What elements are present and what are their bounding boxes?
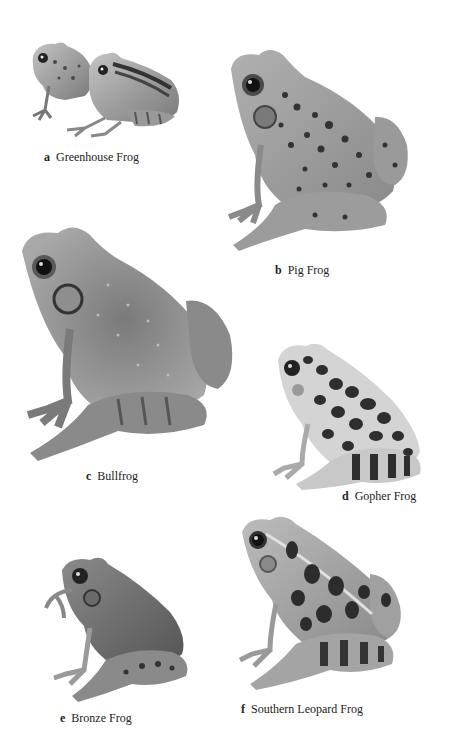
- caption-letter: d: [342, 489, 349, 503]
- caption-name: Bullfrog: [97, 469, 138, 483]
- caption-bullfrog: cBullfrog: [86, 469, 138, 484]
- caption-name: Greenhouse Frog: [56, 150, 139, 164]
- gopher-frog-illustration: [272, 340, 437, 490]
- caption-name: Gopher Frog: [355, 489, 417, 503]
- pig-frog-illustration: [225, 45, 415, 255]
- caption-letter: a: [44, 150, 50, 164]
- southern-leopard-frog-illustration: [236, 514, 416, 694]
- greenhouse-frog-illustration: [25, 38, 185, 138]
- caption-name: Bronze Frog: [71, 711, 131, 725]
- caption-southern-leopard-frog: fSouthern Leopard Frog: [241, 702, 363, 717]
- caption-gopher-frog: dGopher Frog: [342, 489, 416, 504]
- frog-plate: aGreenhouse Frog bPig Frog: [0, 0, 457, 748]
- caption-letter: b: [275, 263, 282, 277]
- caption-letter: e: [60, 711, 65, 725]
- caption-letter: f: [241, 702, 245, 716]
- bronze-frog-illustration: [42, 556, 197, 706]
- caption-greenhouse-frog: aGreenhouse Frog: [44, 150, 139, 165]
- caption-pig-frog: bPig Frog: [275, 263, 329, 278]
- caption-name: Southern Leopard Frog: [251, 702, 363, 716]
- bullfrog-illustration: [18, 225, 243, 465]
- caption-bronze-frog: eBronze Frog: [60, 711, 132, 726]
- caption-name: Pig Frog: [288, 263, 330, 277]
- caption-letter: c: [86, 469, 91, 483]
